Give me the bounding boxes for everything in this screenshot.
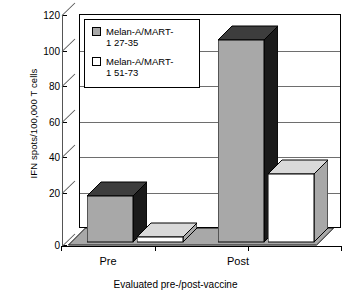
- legend-item-melan-51-73: Melan-A/MART- 1 51-73: [92, 56, 199, 78]
- x-tick-mark-middle: [155, 246, 156, 251]
- x-tick-mark-right: [248, 246, 249, 251]
- legend-label-melan-51-73: Melan-A/MART- 1 51-73: [106, 56, 173, 78]
- x-axis-line: [61, 246, 342, 247]
- y-tick-label-80: 80: [34, 82, 60, 92]
- y-diag-120: [62, 3, 76, 16]
- x-tick-mark-end: [341, 246, 342, 251]
- x-tick-label-post: Post: [203, 255, 273, 267]
- legend-label-melan-27-35: Melan-A/MART- 1 27-35: [106, 26, 173, 48]
- y-diag-100: [62, 39, 76, 52]
- y-diag-40: [62, 145, 76, 158]
- y-tick-label-40: 40: [34, 153, 60, 163]
- y-tick-label-120: 120: [34, 11, 60, 21]
- x-tick-label-pre: Pre: [73, 255, 143, 267]
- y-diag-60: [62, 110, 76, 123]
- bar-post-melan-27-35: [218, 0, 264, 246]
- y-diag-80: [62, 74, 76, 87]
- y-tick-label-0: 0: [34, 241, 60, 251]
- legend-swatch-gray-icon: [92, 27, 101, 36]
- x-tick-mark-left: [61, 246, 62, 251]
- y-tick-label-100: 100: [34, 47, 60, 57]
- y-diag-20: [62, 181, 76, 194]
- legend: Melan-A/MART- 1 27-35 Melan-A/MART- 1 51…: [84, 19, 200, 88]
- y-tick-label-60: 60: [34, 118, 60, 128]
- bar-chart: IFN spots/100,000 T cells 120 100 80 60 …: [0, 0, 351, 304]
- y-tick-label-20: 20: [34, 189, 60, 199]
- x-axis-title: Evaluated pre-/post-vaccine: [0, 279, 351, 290]
- bar-post-melan-51-73: [268, 0, 314, 246]
- legend-swatch-white-icon: [92, 57, 101, 66]
- legend-item-melan-27-35: Melan-A/MART- 1 27-35: [92, 26, 199, 48]
